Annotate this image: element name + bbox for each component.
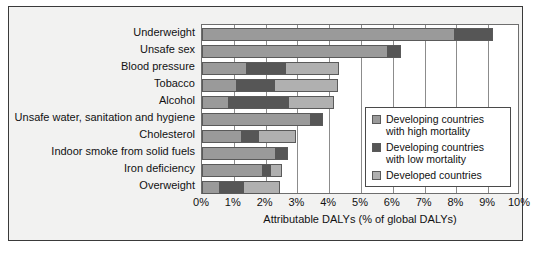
- x-tick-label: 8%: [447, 196, 463, 208]
- legend-item[interactable]: Developing countrieswith high mortality: [372, 113, 506, 137]
- bar-segment-developed: [275, 80, 337, 91]
- bar-row[interactable]: [202, 59, 518, 76]
- bar-segment-developed: [271, 165, 281, 176]
- legend-swatch-icon: [372, 115, 381, 124]
- x-tick-label: 7%: [416, 196, 432, 208]
- bar-row[interactable]: [202, 76, 518, 93]
- x-tick-label: 2%: [257, 196, 273, 208]
- bar-segment-developing-low-mortality: [228, 97, 288, 108]
- category-label: Overweight: [139, 177, 195, 194]
- bar-segment-developed: [286, 63, 338, 74]
- legend-item[interactable]: Developed countries: [372, 169, 506, 181]
- legend-label: Developed countries: [386, 169, 482, 181]
- x-tick-label: 10%: [508, 196, 530, 208]
- bar-segment-developing-low-mortality: [310, 114, 323, 125]
- bar-segment-developing-low-mortality: [246, 63, 286, 74]
- category-label: Unsafe sex: [140, 41, 195, 58]
- bar-segment-developed: [244, 182, 279, 193]
- x-axis-tick-labels: 0%1%2%3%4%5%6%7%8%9%10%: [201, 196, 519, 212]
- bar-segment-developing-high-mortality: [203, 114, 310, 125]
- bar-segment-developing-high-mortality: [203, 46, 387, 57]
- stacked-bar[interactable]: [202, 147, 288, 160]
- bar-segment-developing-high-mortality: [203, 131, 241, 142]
- bar-segment-developing-low-mortality: [262, 165, 272, 176]
- chart-legend: Developing countrieswith high mortalityD…: [365, 107, 511, 187]
- legend-swatch-icon: [372, 171, 381, 180]
- x-tick-label: 3%: [288, 196, 304, 208]
- x-tick-label: 9%: [479, 196, 495, 208]
- bar-segment-developed: [259, 131, 296, 142]
- x-axis-title: Attributable DALYs (% of global DALYs): [201, 213, 519, 225]
- x-tick-label: 6%: [384, 196, 400, 208]
- stacked-bar[interactable]: [202, 130, 296, 143]
- chart-figure: UnderweightUnsafe sexBlood pressureTobac…: [8, 6, 523, 241]
- category-label: Tobacco: [154, 75, 195, 92]
- bar-segment-developing-high-mortality: [203, 29, 454, 40]
- bar-segment-developing-low-mortality: [454, 29, 492, 40]
- x-tick-label: 4%: [320, 196, 336, 208]
- x-tick-label: 0%: [193, 196, 209, 208]
- bar-segment-developing-low-mortality: [219, 182, 244, 193]
- bar-row[interactable]: [202, 25, 518, 42]
- x-tick-label: 1%: [225, 196, 241, 208]
- bar-segment-developing-low-mortality: [275, 148, 288, 159]
- bar-segment-developed: [289, 97, 334, 108]
- bar-segment-developing-low-mortality: [387, 46, 400, 57]
- stacked-bar[interactable]: [202, 181, 280, 194]
- legend-label: Developing countrieswith high mortality: [386, 113, 484, 137]
- category-label: Alcohol: [159, 92, 195, 109]
- stacked-bar[interactable]: [202, 113, 323, 126]
- stacked-bar[interactable]: [202, 45, 401, 58]
- bar-segment-developing-high-mortality: [203, 165, 262, 176]
- stacked-bar[interactable]: [202, 79, 338, 92]
- category-label: Cholesterol: [139, 126, 195, 143]
- stacked-bar[interactable]: [202, 96, 334, 109]
- x-tick-label: 5%: [352, 196, 368, 208]
- category-label: Underweight: [133, 24, 195, 41]
- legend-swatch-icon: [372, 143, 381, 152]
- category-label: Unsafe water, sanitation and hygiene: [15, 109, 195, 126]
- stacked-bar[interactable]: [202, 62, 339, 75]
- legend-label: Developing countrieswith low mortality: [386, 141, 484, 165]
- stacked-bar[interactable]: [202, 28, 493, 41]
- category-axis-labels: UnderweightUnsafe sexBlood pressureTobac…: [13, 24, 199, 194]
- category-label: Indoor smoke from solid fuels: [51, 143, 195, 160]
- bar-segment-developing-high-mortality: [203, 148, 275, 159]
- category-label: Blood pressure: [121, 58, 195, 75]
- bar-segment-developing-high-mortality: [203, 97, 228, 108]
- bar-segment-developing-high-mortality: [203, 182, 219, 193]
- bar-segment-developing-high-mortality: [203, 63, 246, 74]
- legend-item[interactable]: Developing countrieswith low mortality: [372, 141, 506, 165]
- bar-segment-developing-low-mortality: [241, 131, 258, 142]
- bar-row[interactable]: [202, 42, 518, 59]
- bar-segment-developing-high-mortality: [203, 80, 236, 91]
- bar-segment-developing-low-mortality: [236, 80, 274, 91]
- stacked-bar[interactable]: [202, 164, 282, 177]
- category-label: Iron deficiency: [124, 160, 195, 177]
